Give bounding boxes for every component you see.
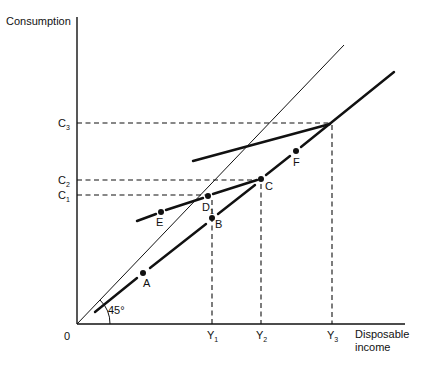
y-axis-title: Consumption: [6, 15, 71, 27]
point-d-marker: [205, 193, 211, 199]
c2-label: C2: [58, 174, 70, 188]
point-a-marker: [140, 270, 146, 276]
short-run-consumption-line-lower: [137, 180, 257, 221]
forty-five-degree-line: [77, 45, 344, 324]
c3-label: C3: [58, 117, 70, 131]
y3-label: Y3: [327, 329, 338, 343]
x-axis-title-line2: income: [355, 341, 390, 353]
point-c-marker: [258, 176, 264, 182]
consumption-diagram: 45° A B C D1 E F Consumption Disposable …: [0, 0, 431, 368]
point-b-label: B: [215, 218, 222, 230]
y2-label: Y2: [256, 329, 267, 343]
origin-label: 0: [64, 330, 70, 342]
angle-label: 45°: [108, 304, 125, 316]
point-c-label: C: [265, 180, 273, 192]
short-run-consumption-line-upper: [193, 124, 330, 161]
point-e-marker: [158, 209, 164, 215]
point-f-marker: [293, 148, 299, 154]
point-f-label: F: [293, 156, 300, 168]
c1-label: C1: [58, 189, 70, 203]
x-axis-title-line1: Disposable: [355, 328, 409, 340]
long-run-consumption-line: [95, 72, 394, 312]
point-a-label: A: [143, 277, 151, 289]
point-e-label: E: [156, 216, 163, 228]
y1-label: Y1: [207, 329, 218, 343]
